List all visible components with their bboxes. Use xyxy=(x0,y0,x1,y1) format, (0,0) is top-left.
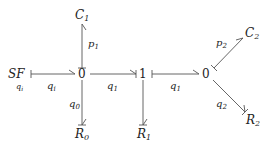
node-r2: R2 xyxy=(245,113,260,128)
junction-0-left: 0 xyxy=(78,67,86,81)
bond-label-qi: qi xyxy=(47,80,56,93)
bond-label-p2: p2 xyxy=(216,37,227,50)
bond-label-q2: q2 xyxy=(216,98,227,111)
half-arrow-icon xyxy=(82,24,86,30)
half-arrow-icon xyxy=(143,119,147,125)
bond-label-q1-right: q1 xyxy=(170,80,181,93)
sf-flow-note: qi xyxy=(16,82,23,92)
half-arrow-icon xyxy=(130,70,136,74)
node-r0: R0 xyxy=(74,127,89,142)
node-sf: SF xyxy=(8,67,25,81)
bond-junction0a-to-junction1 xyxy=(90,70,136,78)
junction-1: 1 xyxy=(139,67,147,81)
bond-junction1-to-r1 xyxy=(139,80,147,125)
bond-label-p1: p1 xyxy=(88,38,99,51)
half-arrow-icon xyxy=(82,119,86,125)
node-c1: C1 xyxy=(75,8,89,23)
bond-junction0a-to-c1 xyxy=(78,24,86,68)
bond-label-q0: q0 xyxy=(69,98,80,111)
bond-junction1-to-junction0b xyxy=(152,70,199,78)
bond-label-q1-left: q1 xyxy=(107,80,118,93)
bond-graph-diagram: SF qi 0 1 0 C1 R0 R1 C2 R2 qi p1 q1 q0 q… xyxy=(0,0,273,153)
junction-0-right: 0 xyxy=(202,67,210,81)
bond-sf-to-junction0a xyxy=(31,70,75,78)
node-r1: R1 xyxy=(136,127,151,142)
half-arrow-icon xyxy=(193,70,199,74)
node-c2: C2 xyxy=(245,26,259,41)
half-arrow-icon xyxy=(69,70,75,74)
